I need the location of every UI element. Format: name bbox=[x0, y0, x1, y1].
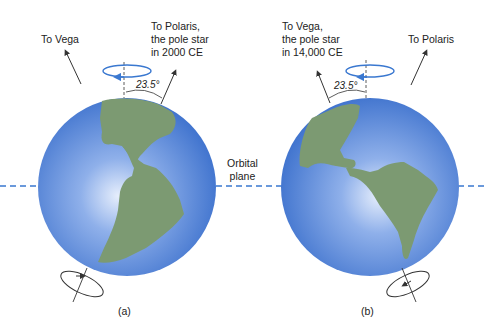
angle-label-b: 23.5° bbox=[334, 80, 357, 91]
polaris-label-b: To Polaris bbox=[408, 33, 454, 46]
angle-label-a: 23.5° bbox=[136, 79, 159, 90]
precession-ring-a bbox=[103, 65, 151, 77]
angle-arc-b bbox=[329, 90, 365, 98]
vega-label-a: To Vega bbox=[41, 33, 79, 46]
caption-a: (a) bbox=[118, 305, 131, 318]
orbital-plane-label: Orbital plane bbox=[227, 157, 258, 183]
vega-arrow-a bbox=[66, 52, 81, 84]
polaris-label-a: To Polaris, the pole star in 2000 CE bbox=[151, 20, 209, 59]
vega-arrow-b bbox=[318, 73, 330, 103]
precession-ring-b bbox=[346, 65, 394, 77]
polaris-arrow-b bbox=[411, 52, 426, 85]
polaris-arrow-a bbox=[161, 72, 175, 104]
angle-arc-a bbox=[126, 90, 162, 98]
caption-b: (b) bbox=[361, 305, 374, 318]
globe-a bbox=[38, 98, 216, 276]
globe-b bbox=[281, 98, 459, 276]
vega-label-b: To Vega, the pole star in 14,000 CE bbox=[282, 20, 343, 59]
